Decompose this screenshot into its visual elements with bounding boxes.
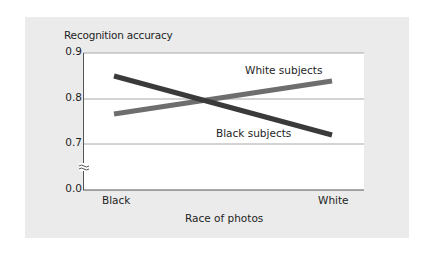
y-tick-0.8: 0.8 [52,91,82,103]
series-label-black-subjects: Black subjects [216,127,291,139]
y-tick-0.9: 0.9 [52,45,82,57]
y-tick-0.7: 0.7 [52,136,82,148]
y-tick-0.0: 0.0 [52,182,82,194]
series-label-white-subjects: White subjects [245,64,322,76]
x-tick-white: White [318,194,349,206]
axis-break-icon [79,163,89,171]
x-axis-title: Race of photos [185,212,263,224]
x-tick-black: Black [102,194,130,206]
